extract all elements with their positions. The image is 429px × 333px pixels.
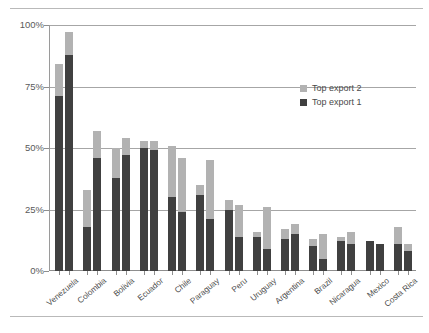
- bottom-divider-rule: [10, 316, 423, 317]
- bar-costa-rica-b: [404, 244, 412, 271]
- legend-swatch-top-export-1: [300, 99, 307, 106]
- x-axis-tick-mark: [172, 271, 173, 275]
- x-axis-tick-mark: [116, 271, 117, 275]
- y-axis-tick-label: 100%: [8, 20, 44, 30]
- x-axis-tick-mark: [408, 271, 409, 275]
- x-axis-tick-mark: [69, 271, 70, 275]
- x-axis-tick-mark: [380, 271, 381, 275]
- x-axis-tick-mark: [200, 271, 201, 275]
- x-axis-tick-mark: [229, 271, 230, 275]
- x-axis-tick-mark: [239, 271, 240, 275]
- x-axis-tick-mark: [323, 271, 324, 275]
- x-axis-tick-mark: [126, 271, 127, 275]
- x-axis-tick-mark: [370, 271, 371, 275]
- top-divider-rule: [10, 8, 423, 9]
- x-axis-tick-mark: [295, 271, 296, 275]
- legend-label-top-export-1: Top export 1: [312, 98, 362, 107]
- y-axis-tick-label: 50%: [8, 143, 44, 153]
- y-axis-tick-label: 75%: [8, 82, 44, 92]
- x-axis-tick-mark: [257, 271, 258, 275]
- y-axis-tick-label: 25%: [8, 205, 44, 215]
- legend-swatch-top-export-2: [300, 85, 307, 92]
- x-axis-tick-mark: [285, 271, 286, 275]
- x-axis-tick-mark: [341, 271, 342, 275]
- x-axis-tick-mark: [182, 271, 183, 275]
- x-axis-tick-mark: [313, 271, 314, 275]
- x-axis-tick-mark: [398, 271, 399, 275]
- legend-item-top-export-2: Top export 2: [300, 82, 362, 94]
- bar-segment-top-export-2: [394, 227, 402, 244]
- x-axis-tick-mark: [154, 271, 155, 275]
- plot-area: [49, 25, 416, 271]
- bar-costa-rica-a: [394, 227, 402, 271]
- bar-segment-top-export-2: [404, 244, 412, 251]
- x-axis-tick-mark: [144, 271, 145, 275]
- bar-segment-top-export-1: [394, 244, 402, 271]
- legend-item-top-export-1: Top export 1: [300, 96, 362, 108]
- bar-group: [49, 25, 416, 271]
- x-axis-tick-mark: [59, 271, 60, 275]
- x-axis-tick-mark: [97, 271, 98, 275]
- x-axis-tick-mark: [87, 271, 88, 275]
- legend-label-top-export-2: Top export 2: [312, 84, 362, 93]
- chart-page: 0%25%50%75%100% VenezuelaColombiaBolivia…: [0, 0, 429, 333]
- x-axis-tick-mark: [267, 271, 268, 275]
- y-axis-tick-mark: [44, 271, 49, 272]
- y-axis-tick-label: 0%: [8, 266, 44, 276]
- x-axis-tick-mark: [351, 271, 352, 275]
- x-axis-tick-mark: [210, 271, 211, 275]
- legend: Top export 2 Top export 1: [300, 82, 362, 110]
- bar-segment-top-export-1: [404, 251, 412, 271]
